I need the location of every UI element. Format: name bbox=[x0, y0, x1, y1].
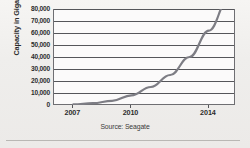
capacity-line-path bbox=[73, 9, 228, 104]
x-tick-label: 2014 bbox=[188, 108, 228, 117]
y-tick-label: 10,000 bbox=[16, 89, 50, 96]
chart-figure: Capacity in Gigabytes 010,00020,00030,00… bbox=[0, 0, 250, 148]
x-tick-label: 2010 bbox=[110, 108, 150, 117]
y-tick-label: 50,000 bbox=[16, 41, 50, 48]
y-tick-label: 0 bbox=[16, 101, 50, 108]
plot-area bbox=[53, 9, 235, 105]
page-rule bbox=[6, 140, 240, 141]
y-tick-label: 70,000 bbox=[16, 17, 50, 24]
capacity-line-series bbox=[54, 9, 236, 105]
y-tick-label: 60,000 bbox=[16, 29, 50, 36]
x-tick-label: 2007 bbox=[52, 108, 92, 117]
y-tick-label: 30,000 bbox=[16, 65, 50, 72]
series-curve-container bbox=[54, 9, 234, 104]
y-tick-label: 40,000 bbox=[16, 53, 50, 60]
source-note: Source: Seagate bbox=[0, 123, 250, 130]
y-tick-label: 20,000 bbox=[16, 77, 50, 84]
y-tick-label: 80,000 bbox=[16, 5, 50, 12]
